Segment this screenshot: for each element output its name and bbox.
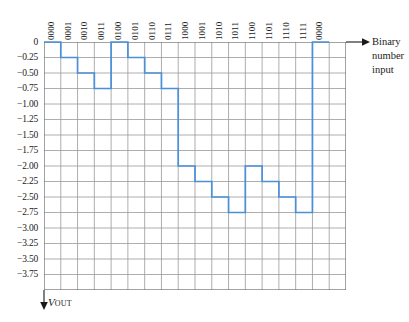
y-axis-tick-label: −0.25 [0,53,42,63]
x-axis-tick-label: 0010 [80,22,89,40]
x-axis-tick-label: 0100 [114,22,123,40]
plot-area [44,42,346,290]
y-axis-tick-label: −3.75 [0,270,42,280]
staircase-waveform [44,42,346,290]
x-axis-tick-label: 1111 [299,23,308,40]
y-axis-title: VOUT [48,296,72,310]
y-axis-tick-label: −2.00 [0,162,42,172]
x-axis-tick-label: 0011 [97,22,106,40]
y-axis-tick-label: −3.00 [0,224,42,234]
x-axis-tick-label: 1100 [248,22,257,40]
y-axis-tick-label: −2.75 [0,208,42,218]
y-axis-tick-label: −1.25 [0,115,42,125]
y-axis-tick-label: −1.00 [0,100,42,110]
x-axis-tick-label: 0101 [131,22,140,40]
y-axis-tick-label: −2.50 [0,193,42,203]
y-axis-title-subscript: OUT [55,299,72,308]
x-axis-tick-label: 0110 [148,22,157,40]
x-axis-tick-label: 1011 [231,22,240,40]
y-axis-tick-label: −3.25 [0,239,42,249]
x-axis-tick-label: 0000 [315,22,324,40]
y-axis-tick-label: −1.50 [0,131,42,141]
x-axis-tick-label: 1110 [282,22,291,40]
x-axis-tick-label: 0000 [47,22,56,40]
x-axis-tick-label: 1000 [181,22,190,40]
x-axis-tick-label: 0111 [164,22,173,40]
x-axis-title: Binary number input [372,35,409,77]
x-axis-tick-label: 1010 [215,22,224,40]
x-axis-tick-label: 1101 [265,22,274,40]
x-axis-tick-label: 0001 [64,22,73,40]
y-axis-tick-label: 0 [0,38,42,48]
y-axis-tick-label: −0.75 [0,84,42,94]
x-axis-tick-label: 1001 [198,22,207,40]
y-axis-tick-labels: 0−0.25−0.50−0.75−1.00−1.25−1.50−1.75−2.0… [0,42,42,290]
y-axis-tick-label: −1.75 [0,146,42,156]
y-axis-tick-label: −3.50 [0,255,42,265]
y-axis-tick-label: −2.25 [0,177,42,187]
y-axis-tick-label: −0.50 [0,69,42,79]
x-axis-tick-labels: 0000000100100011010001010110011110001001… [44,0,346,42]
y-axis-title-main: V [48,296,55,308]
